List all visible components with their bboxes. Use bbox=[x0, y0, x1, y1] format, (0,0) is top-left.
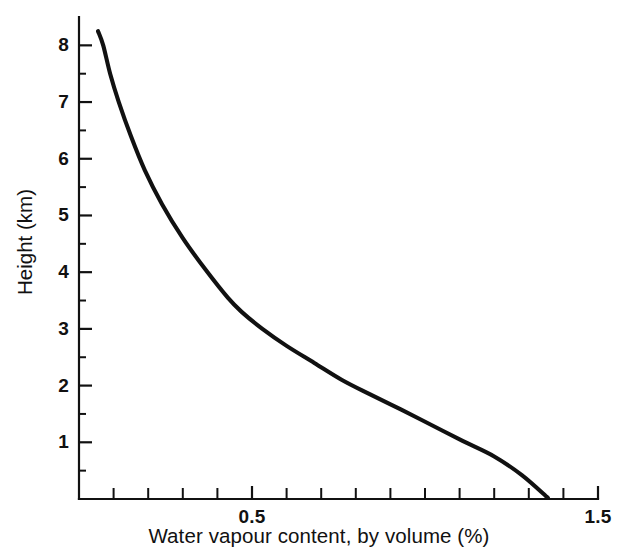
chart-plot-area bbox=[0, 0, 638, 560]
y-axis-label: Height (km) bbox=[13, 147, 37, 337]
x-axis-label: Water vapour content, by volume (%) bbox=[0, 524, 638, 548]
ticks-group bbox=[79, 45, 598, 499]
y-axis-label-container: Height (km) bbox=[4, 0, 44, 500]
data-series-line bbox=[98, 31, 548, 498]
axes-group bbox=[79, 17, 598, 499]
chart-figure: 12345678 0.51.5 Height (km) Water vapour… bbox=[0, 0, 638, 560]
